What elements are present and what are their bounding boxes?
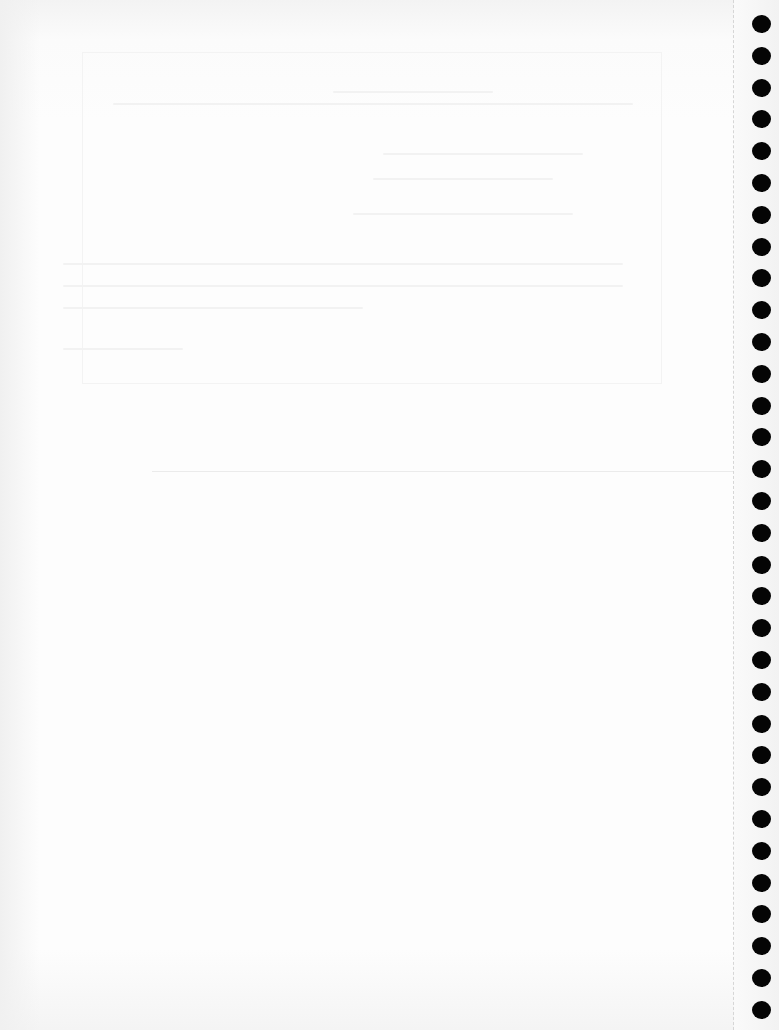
binding-hole xyxy=(752,778,771,796)
binding-hole xyxy=(752,492,771,510)
show-through-line xyxy=(383,153,583,155)
show-through-line xyxy=(353,213,573,215)
show-through-line xyxy=(63,348,183,350)
binding-hole xyxy=(752,905,771,923)
horizontal-rule xyxy=(152,471,734,472)
binding-hole xyxy=(752,79,771,97)
binding-hole xyxy=(752,397,771,415)
show-through-line xyxy=(63,263,623,265)
show-through-line xyxy=(373,178,553,180)
binding-hole xyxy=(752,47,771,65)
binding-hole xyxy=(752,937,771,955)
binding-hole xyxy=(752,174,771,192)
binding-hole xyxy=(752,874,771,892)
binding-hole xyxy=(752,587,771,605)
show-through-line xyxy=(333,91,493,93)
binding-hole xyxy=(752,15,771,33)
show-through-line xyxy=(63,307,363,309)
binding-hole xyxy=(752,969,771,987)
binding-hole xyxy=(752,110,771,128)
binding-hole xyxy=(752,715,771,733)
binding-hole xyxy=(752,651,771,669)
binding-hole xyxy=(752,333,771,351)
binding-hole xyxy=(752,460,771,478)
binding-hole xyxy=(752,269,771,287)
binding-hole xyxy=(752,746,771,764)
binding-hole xyxy=(752,206,771,224)
binding-hole xyxy=(752,619,771,637)
binding-hole xyxy=(752,142,771,160)
page-edge-shadow xyxy=(0,0,40,1030)
notebook-page xyxy=(0,0,779,1030)
binding-hole xyxy=(752,810,771,828)
binding-hole xyxy=(752,842,771,860)
binding-hole xyxy=(752,301,771,319)
binding-hole xyxy=(752,238,771,256)
show-through-line xyxy=(63,285,623,287)
binding-hole xyxy=(752,683,771,701)
binding-hole xyxy=(752,556,771,574)
binding-hole xyxy=(752,365,771,383)
binding-hole xyxy=(752,1001,771,1019)
binding-hole xyxy=(752,524,771,542)
binding-hole xyxy=(752,428,771,446)
show-through-line xyxy=(113,103,633,105)
show-through-region xyxy=(82,52,662,384)
perforation-line xyxy=(733,0,734,1030)
